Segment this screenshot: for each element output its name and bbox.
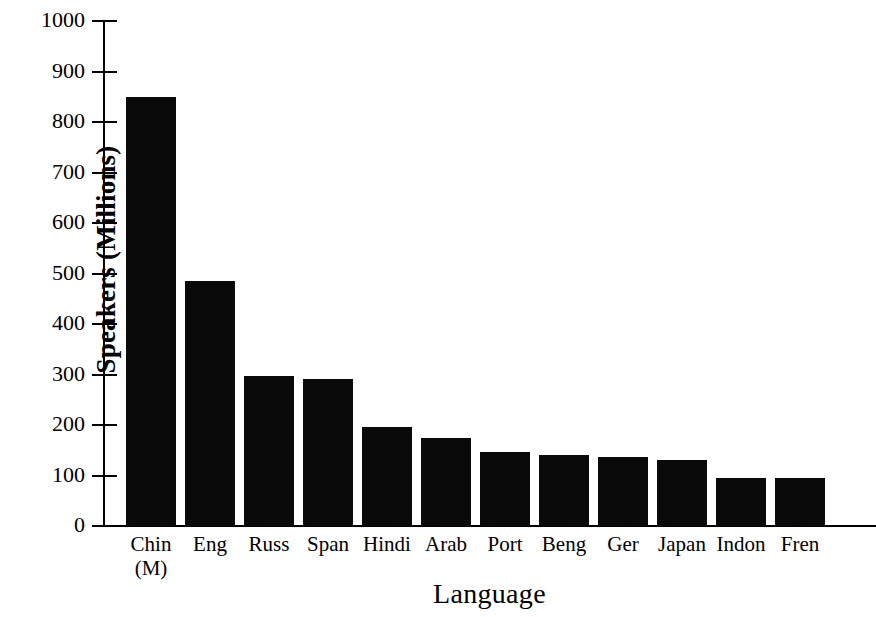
x-tick-label-line1: Hindi (363, 532, 411, 556)
x-tick-label-line1: Ger (607, 532, 638, 556)
x-tick-label: Hindi (353, 532, 421, 556)
x-tick-label-line1: Indon (717, 532, 766, 556)
x-tick-label-line1: Eng (193, 532, 227, 556)
x-tick-label-line1: Chin (131, 532, 172, 556)
x-tick-label: Beng (530, 532, 598, 556)
x-tick-label: Eng (176, 532, 244, 556)
bars-layer (0, 0, 876, 526)
bar (480, 452, 530, 526)
x-tick-label: Arab (412, 532, 480, 556)
x-tick-label: Port (471, 532, 539, 556)
bar (716, 478, 766, 526)
x-tick-label: Chin(M) (117, 532, 185, 580)
bar (657, 460, 707, 526)
x-tick-label-line2: (M) (117, 556, 185, 580)
x-tick-label: Ger (589, 532, 657, 556)
bar (303, 379, 353, 526)
x-tick-label-line1: Japan (658, 532, 706, 556)
bar (244, 376, 294, 526)
bar-chart-figure: Speakers (Millions) 01002003004005006007… (0, 0, 876, 617)
x-tick-label: Russ (235, 532, 303, 556)
x-axis-title: Language (103, 578, 876, 610)
bar (185, 281, 235, 526)
bar (126, 97, 176, 526)
bar (362, 427, 412, 526)
x-tick-label-line1: Port (487, 532, 522, 556)
bar (775, 478, 825, 526)
bar (598, 457, 648, 526)
x-tick-label: Japan (648, 532, 716, 556)
x-tick-label-line1: Russ (249, 532, 290, 556)
bar (539, 455, 589, 526)
x-tick-label: Fren (766, 532, 834, 556)
x-tick-label-line1: Span (307, 532, 349, 556)
x-tick-label-line1: Fren (781, 532, 820, 556)
x-tick-label: Indon (707, 532, 775, 556)
x-tick-label-line1: Arab (425, 532, 467, 556)
x-tick-label: Span (294, 532, 362, 556)
x-tick-label-line1: Beng (542, 532, 586, 556)
bar (421, 438, 471, 526)
